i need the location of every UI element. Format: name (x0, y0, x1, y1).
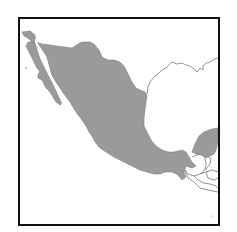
mexico-map (20, 19, 218, 224)
mexico-mainland (22, 31, 196, 180)
island (25, 67, 27, 69)
us-mexico-border-line (147, 58, 218, 94)
island (211, 215, 212, 216)
yucatan-peninsula (192, 128, 218, 157)
map-frame: Mexico (18, 17, 220, 226)
